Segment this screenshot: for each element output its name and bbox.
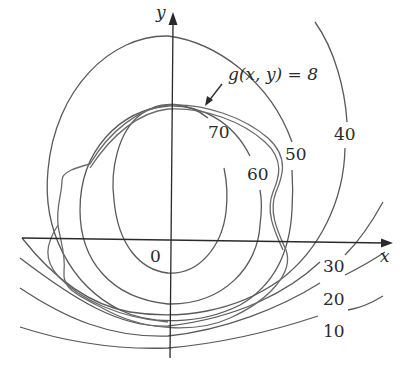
contour-diagram: y x 0 g(x, y) = 8 70 60 50 40 30 20 10 — [0, 0, 402, 368]
y-axis — [170, 22, 173, 358]
x-axis-label: x — [380, 246, 390, 266]
y-axis-arrowhead-icon — [169, 12, 178, 25]
level-curve-10 — [348, 296, 383, 310]
level-label-10: 10 — [323, 321, 345, 341]
constraint-label: g(x, y) = 8 — [228, 64, 318, 84]
level-label-20: 20 — [323, 289, 345, 309]
level-label-30: 30 — [323, 256, 345, 276]
origin-label: 0 — [150, 246, 161, 266]
level-label-40: 40 — [334, 124, 356, 144]
level-label-60: 60 — [247, 164, 269, 184]
y-axis-label: y — [155, 2, 166, 22]
level-label-70: 70 — [208, 122, 230, 142]
level-label-50: 50 — [285, 144, 307, 164]
level-curve-30 — [345, 202, 383, 255]
level-curve-40 — [315, 22, 347, 122]
level-curve-20 — [345, 252, 385, 275]
x-axis — [22, 238, 386, 243]
